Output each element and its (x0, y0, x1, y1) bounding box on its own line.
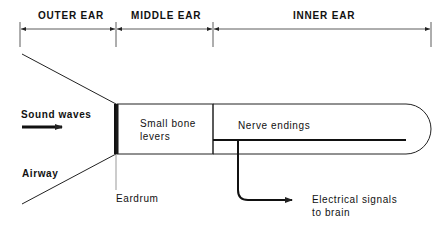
label-nerve-endings: Nerve endings (238, 120, 310, 132)
label-small-bone-levers-1: Small bone (140, 118, 196, 130)
label-airway: Airway (22, 168, 58, 180)
label-electrical-signals-1: Electrical signals (312, 194, 397, 206)
label-small-bone-levers-2: levers (140, 131, 170, 143)
electrical-signal-arrow (238, 140, 292, 200)
section-label-middle-ear: MIDDLE EAR (131, 10, 201, 22)
section-label-outer-ear: OUTER EAR (38, 10, 104, 22)
section-label-inner-ear: INNER EAR (293, 10, 355, 22)
label-eardrum: Eardrum (116, 193, 159, 205)
eardrum-membrane (114, 104, 119, 154)
section-dividers (20, 22, 431, 47)
label-electrical-signals-2: to brain (312, 207, 350, 219)
label-sound-waves: Sound waves (21, 109, 92, 121)
outer-ear-funnel (22, 54, 116, 204)
